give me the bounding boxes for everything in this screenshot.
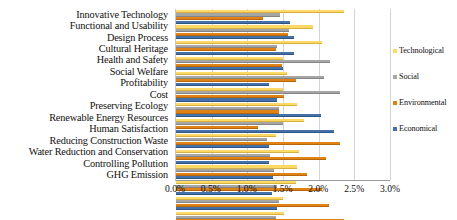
bar-economical <box>176 21 290 24</box>
bar-economical <box>176 114 321 117</box>
legend-label: Social <box>399 72 419 81</box>
x-tick-label: 1.0% <box>237 183 257 194</box>
bar-group <box>176 134 390 150</box>
bar-group <box>176 165 390 181</box>
bar-rows <box>176 9 390 180</box>
bar-group <box>176 56 390 72</box>
bar-environmental <box>176 219 344 220</box>
bar-economical <box>176 207 277 210</box>
x-tick-label: 2.0% <box>308 183 328 194</box>
x-tick-label: 3.0% <box>380 183 400 194</box>
category-label: Innovative Technology <box>0 9 172 20</box>
bar-economical <box>176 130 334 133</box>
bar-group <box>176 149 390 165</box>
bar-economical <box>176 145 269 148</box>
bar-group <box>176 25 390 41</box>
bar-group <box>176 118 390 134</box>
category-label: Preserving Ecology <box>0 101 172 112</box>
grouped-bar-chart: Innovative TechnologyFunctional and Usab… <box>0 0 457 220</box>
bar-economical <box>176 52 294 55</box>
bar-economical <box>176 161 269 164</box>
legend-item-environmental[interactable]: Environmental <box>393 98 457 107</box>
category-label: GHG Emission <box>0 170 172 181</box>
legend-item-technological[interactable]: Technological <box>393 46 457 55</box>
category-label: Reducing Construction Waste <box>0 135 172 146</box>
x-axis-tick-labels: 0.0%0.5%1.0%1.5%2.0%2.5%3.0% <box>175 183 390 199</box>
x-tick-label: 2.5% <box>344 183 364 194</box>
legend-label: Technological <box>399 46 444 55</box>
category-label: Social Welfare <box>0 66 172 77</box>
category-label: Health and Safety <box>0 55 172 66</box>
legend-swatch-icon <box>393 75 397 79</box>
category-label: Controlling Pollution <box>0 158 172 169</box>
legend-label: Economical <box>399 124 437 133</box>
bar-group <box>176 87 390 103</box>
category-label: Human Satisfaction <box>0 124 172 135</box>
legend-swatch-icon <box>393 127 397 131</box>
legend-label: Environmental <box>399 98 446 107</box>
bar-economical <box>176 83 269 86</box>
legend-item-economical[interactable]: Economical <box>393 124 457 133</box>
bar-group <box>176 71 390 87</box>
bar-group <box>176 102 390 118</box>
x-tick-label: 0.0% <box>165 183 185 194</box>
plot-area <box>175 9 390 181</box>
x-tick-label: 1.5% <box>273 183 293 194</box>
category-label: Cost <box>0 89 172 100</box>
category-axis: Innovative TechnologyFunctional and Usab… <box>0 9 172 181</box>
bar-group <box>176 211 390 220</box>
category-label: Water Reduction and Conservation <box>0 147 172 158</box>
x-tick-label: 0.5% <box>201 183 221 194</box>
category-label: Functional and Usability <box>0 20 172 31</box>
category-label: Design Process <box>0 32 172 43</box>
bar-economical <box>176 176 273 179</box>
bar-group <box>176 40 390 56</box>
bar-group <box>176 9 390 25</box>
chart-legend: TechnologicalSocialEnvironmentalEconomic… <box>393 46 457 133</box>
legend-swatch-icon <box>393 101 397 105</box>
bar-economical <box>176 36 294 39</box>
gridline <box>390 9 391 180</box>
legend-swatch-icon <box>393 49 397 53</box>
bar-economical <box>176 98 277 101</box>
category-label: Profitability <box>0 78 172 89</box>
legend-item-social[interactable]: Social <box>393 72 457 81</box>
bar-economical <box>176 67 283 70</box>
category-label: Renewable Energy Resources <box>0 112 172 123</box>
category-label: Cultural Heritage <box>0 43 172 54</box>
